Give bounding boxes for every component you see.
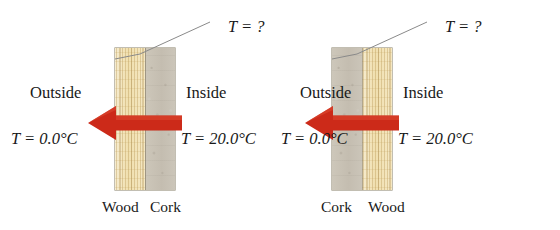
material-label-inner: Wood bbox=[368, 199, 405, 215]
inside-temperature-label: T = 20.0°C bbox=[398, 131, 473, 148]
panel-wood-outside: T = ? Outside Inside T = 0.0°C T = 20.0°… bbox=[0, 0, 280, 230]
unknown-temp-text: T = ? bbox=[228, 17, 265, 36]
material-label-inner: Cork bbox=[150, 199, 181, 215]
panel-cork-outside: T = ? Outside Inside T = 0.0°C T = 20.0°… bbox=[280, 0, 560, 230]
inside-temperature-label: T = 20.0°C bbox=[181, 131, 256, 148]
outside-label: Outside bbox=[300, 85, 351, 102]
material-label-outer: Cork bbox=[321, 199, 352, 215]
outside-label: Outside bbox=[30, 85, 81, 102]
unknown-temperature-label: T = ? bbox=[445, 19, 482, 36]
unknown-temp-text: T = ? bbox=[445, 17, 482, 36]
unknown-temperature-label: T = ? bbox=[228, 19, 265, 36]
heat-flow-arrow bbox=[86, 104, 184, 142]
material-label-outer: Wood bbox=[102, 199, 139, 215]
inside-label: Inside bbox=[186, 85, 226, 102]
outside-temperature-label: T = 0.0°C bbox=[281, 131, 348, 148]
outside-temperature-label: T = 0.0°C bbox=[11, 131, 78, 148]
conduction-figure: T = ? Outside Inside T = 0.0°C T = 20.0°… bbox=[0, 0, 560, 230]
inside-label: Inside bbox=[403, 85, 443, 102]
